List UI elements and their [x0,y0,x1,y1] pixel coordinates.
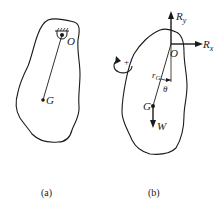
label-rg: rG [152,70,161,82]
label-g-b: G [143,100,151,112]
label-o-a: O [67,35,75,47]
label-rx: Rx [202,38,214,53]
positive-rotation-icon: + [114,56,132,73]
label-theta: θ [163,84,168,94]
label-ry: Ry [175,10,187,25]
g-point-a [41,98,45,102]
figure-b: + Ry Rx O rG θ G W (b) [114,10,214,199]
caption-a: (a) [41,187,52,199]
label-w: W [157,120,167,132]
diagram-canvas: O G (a) [0,0,221,208]
reaction-y-arrow-icon [168,11,174,44]
label-g-a: G [46,94,54,106]
caption-b: (b) [148,187,160,199]
label-o-b: O [170,47,178,59]
figure-a: O G (a) [16,19,80,199]
pivot-to-g-line-a [43,35,62,100]
svg-text:+: + [124,57,129,67]
theta-arc-icon [161,78,171,82]
